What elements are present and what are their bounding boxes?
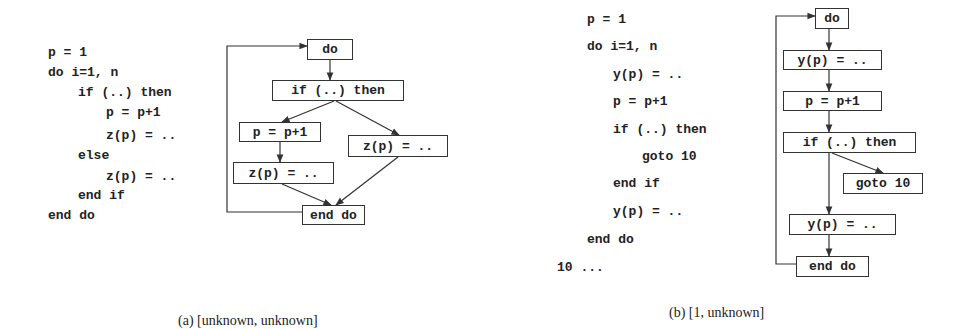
code-line: do i=1, n	[587, 40, 657, 54]
node-do: do	[307, 39, 353, 60]
node-end-do: end do	[302, 205, 365, 225]
node-p-increment: p = p+1	[239, 122, 321, 142]
code-line: 10 ...	[557, 261, 604, 275]
code-line: if (..) then	[613, 123, 707, 137]
code-line: end if	[613, 177, 660, 191]
node-end-do: end do	[796, 256, 869, 277]
code-line: p = p+1	[613, 95, 668, 109]
node-if-then: if (..) then	[783, 132, 916, 153]
node-do: do	[815, 8, 849, 29]
node-p-increment: p = p+1	[783, 91, 882, 111]
figure-a-caption: (a) [unknown, unknown]	[178, 313, 318, 329]
node-if-then: if (..) then	[272, 80, 404, 101]
code-line: y(p) = ..	[613, 205, 683, 219]
node-z-assign-left: z(p) = ..	[233, 162, 334, 184]
code-line: y(p) = ..	[613, 68, 683, 82]
code-line: goto 10	[642, 150, 697, 164]
node-y-assign-bottom: y(p) = ..	[789, 214, 896, 235]
node-goto-10: goto 10	[843, 173, 923, 194]
code-line: p = 1	[587, 13, 626, 27]
figure-b-caption: (b) [1, unknown]	[669, 305, 764, 321]
code-line: end do	[587, 233, 634, 247]
node-z-assign-right: z(p) = ..	[348, 135, 448, 157]
node-y-assign-top: y(p) = ..	[783, 50, 882, 70]
